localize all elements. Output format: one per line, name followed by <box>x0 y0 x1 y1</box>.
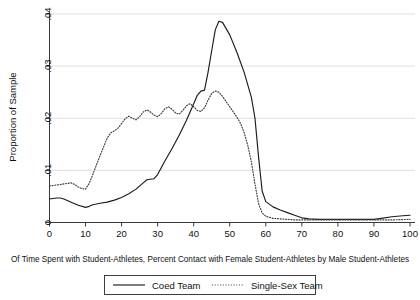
x-tick-label-0: 0 <box>47 228 52 239</box>
x-tick-label-9: 90 <box>369 228 380 239</box>
legend-label-single-sex-team: Single-Sex Team <box>251 280 323 291</box>
x-tick-label-6: 60 <box>261 228 272 239</box>
x-tick-label-1: 10 <box>80 228 91 239</box>
y-axis-title: Proportion of Sample <box>7 72 18 161</box>
series-line-coed-team <box>50 21 411 219</box>
y-tick-label-2: .02 <box>42 112 53 125</box>
y-tick-label-4: .04 <box>42 7 53 20</box>
y-tick-label-1: .01 <box>42 164 53 177</box>
data-series <box>50 21 411 220</box>
x-tick-label-2: 20 <box>116 228 127 239</box>
chart-figure: 0.01.02.03.04 0102030405060708090100 Pro… <box>0 0 420 300</box>
legend-label-coed-team: Coed Team <box>152 280 200 291</box>
grid-lines <box>50 14 416 223</box>
density-plot: 0.01.02.03.04 0102030405060708090100 Pro… <box>0 0 420 300</box>
x-tick-label-5: 50 <box>224 228 235 239</box>
x-tick-label-8: 80 <box>333 228 344 239</box>
x-axis-caption: Of Time Spent with Student-Athletes, Per… <box>11 255 409 264</box>
chart-legend: Coed Team Single-Sex Team <box>105 276 323 295</box>
series-line-single-sex-team <box>50 91 411 220</box>
x-tick-label-3: 30 <box>152 228 163 239</box>
y-tick-label-0: 0 <box>42 220 53 225</box>
x-tick-label-4: 40 <box>188 228 199 239</box>
y-tick-labels: 0.01.02.03.04 <box>42 7 53 225</box>
x-tick-labels: 0102030405060708090100 <box>47 228 418 239</box>
x-tick-label-10: 100 <box>402 228 418 239</box>
y-tick-label-3: .03 <box>42 60 53 73</box>
x-tick-label-7: 70 <box>297 228 308 239</box>
x-tick-marks <box>50 223 411 227</box>
